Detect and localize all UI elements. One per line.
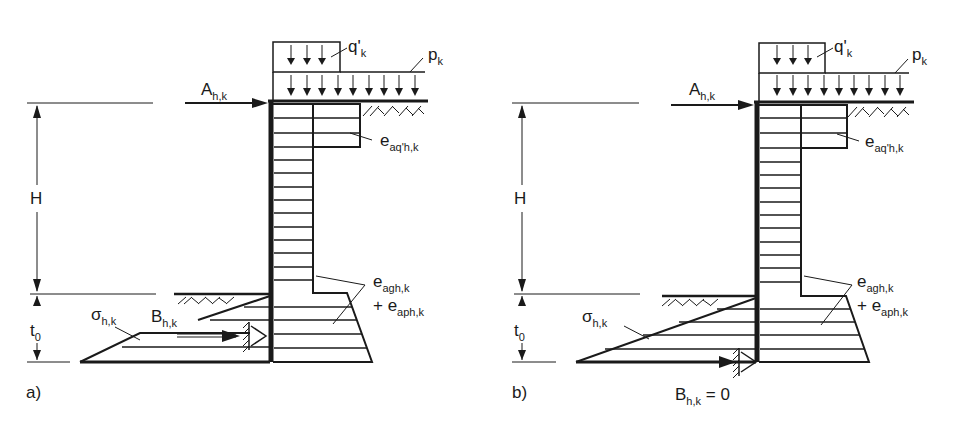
label-height: H xyxy=(30,189,42,208)
arrow-up-icon xyxy=(33,296,41,306)
active-pressure-diagram xyxy=(273,104,372,362)
arrow-down-icon xyxy=(33,350,41,360)
surcharge-p-arrows xyxy=(287,75,419,96)
pressure-hatching xyxy=(274,118,367,348)
arrow-down-icon xyxy=(518,350,526,360)
surcharge-q-arrows xyxy=(287,45,326,65)
surcharge-pressure-block xyxy=(313,104,360,147)
caption-a: a) xyxy=(26,383,41,402)
soil-hatch-top xyxy=(363,106,424,116)
label-pressure-surcharge: eaq'h,k xyxy=(865,132,904,154)
panel-a xyxy=(27,42,428,362)
label-pressure-surcharge: eaq'h,k xyxy=(380,131,419,153)
passive-stress-diagram xyxy=(576,298,756,362)
label-pressure-earth-plus: + eaph,k xyxy=(373,296,425,318)
arrow-up-icon xyxy=(33,105,41,118)
label-q-k: q'k xyxy=(348,37,367,59)
arrow-down-icon xyxy=(33,279,41,292)
soil-hatch-bottom xyxy=(178,297,234,304)
anchor-arrow-icon xyxy=(252,98,268,108)
arrow-up-icon xyxy=(518,105,526,118)
diagram-canvas: q'k pk Ah,k eaq'h,k H t0 eagh,k + eaph,k… xyxy=(0,0,957,435)
arrow-up-icon xyxy=(518,296,526,306)
arrow-down-icon xyxy=(518,279,526,292)
label-support-force: Bh,k = 0 xyxy=(675,385,730,407)
anchor-arrow-icon xyxy=(738,100,754,110)
label-anchor-force: Ah,k xyxy=(689,80,716,102)
label-support-force: Bh,k xyxy=(151,307,178,329)
label-passive-stress: σh,k xyxy=(91,305,117,327)
label-q-k: q'k xyxy=(834,37,853,59)
support-symbol-icon xyxy=(251,326,266,346)
label-embedment: t0 xyxy=(514,321,525,343)
label-passive-stress: σh,k xyxy=(582,307,608,329)
label-pressure-earth: eagh,k xyxy=(373,272,410,294)
support-arrow-icon xyxy=(222,330,240,342)
label-pressure-earth: eagh,k xyxy=(857,272,894,294)
label-height: H xyxy=(514,189,526,208)
label-pressure-earth-plus: + eaph,k xyxy=(857,296,909,318)
label-p-k: pk xyxy=(912,45,927,67)
label-anchor-force: Ah,k xyxy=(201,80,228,102)
caption-b: b) xyxy=(512,383,527,402)
label-embedment: t0 xyxy=(30,321,41,343)
label-p-k: pk xyxy=(428,45,443,67)
